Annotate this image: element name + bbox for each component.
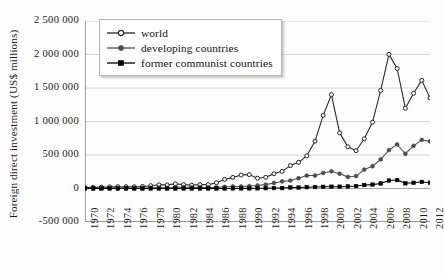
series-marker (412, 181, 416, 185)
series-marker (198, 187, 202, 191)
series-marker (395, 67, 399, 71)
legend-label: developing countries (141, 42, 238, 54)
series-marker (91, 187, 95, 191)
series-marker (403, 152, 407, 156)
series-marker (329, 93, 333, 97)
legend-label: world (141, 27, 168, 39)
series-marker (157, 187, 161, 191)
series-marker (420, 180, 424, 184)
series-marker (289, 186, 293, 190)
series-marker (231, 187, 235, 191)
series-marker (387, 52, 391, 56)
legend-marker-icon (106, 42, 136, 54)
series-marker (174, 187, 178, 191)
series-marker (288, 164, 292, 168)
series-line (85, 140, 430, 188)
series-marker (85, 187, 87, 191)
series-marker (116, 187, 120, 191)
series-marker (346, 185, 350, 189)
series-marker (313, 139, 317, 143)
series-marker (362, 183, 366, 187)
series-marker (330, 185, 334, 189)
series-marker (321, 185, 325, 189)
fdi-line-chart-figure: Foreign direct investment (US$ millions)… (0, 0, 445, 278)
series-marker (223, 187, 227, 191)
series-marker (403, 106, 407, 110)
series-marker (371, 120, 375, 124)
series-marker (231, 175, 235, 179)
series-marker (362, 168, 366, 172)
series-marker (305, 185, 309, 189)
series-marker (338, 172, 342, 176)
series-marker (313, 174, 317, 178)
series-marker (412, 91, 416, 95)
series-marker (338, 185, 342, 189)
series-marker (420, 78, 424, 82)
series-marker (420, 138, 424, 142)
series-marker (297, 186, 301, 190)
series-marker (412, 144, 416, 148)
legend-item: world (106, 25, 273, 40)
series-marker (256, 176, 260, 180)
series-marker (428, 181, 430, 185)
series-marker (354, 184, 358, 188)
series-marker (362, 137, 366, 141)
series-marker (305, 174, 309, 178)
series-marker (190, 187, 194, 191)
legend-marker-icon (106, 27, 136, 39)
series-marker (182, 187, 186, 191)
series-marker (165, 187, 169, 191)
series-marker (247, 173, 251, 177)
x-tick-label: 2012 (434, 207, 445, 229)
series-marker (132, 187, 136, 191)
series-marker (272, 172, 276, 176)
legend-item: former communist countries (106, 55, 273, 70)
series-marker (428, 96, 430, 100)
series-marker (149, 187, 153, 191)
series-marker (404, 181, 408, 185)
series-marker (305, 154, 309, 158)
series-marker (387, 148, 391, 152)
series-marker (108, 187, 112, 191)
series-marker (239, 173, 243, 177)
series-marker (371, 164, 375, 168)
series-marker (141, 187, 145, 191)
series-marker (346, 145, 350, 149)
series-marker (346, 175, 350, 179)
series-marker (272, 186, 276, 190)
series-marker (223, 177, 227, 181)
series-marker (206, 187, 210, 191)
series-marker (379, 88, 383, 92)
series-marker (428, 139, 430, 143)
series-marker (288, 179, 292, 183)
series-marker (379, 158, 383, 162)
series-marker (354, 149, 358, 153)
series-marker (338, 131, 342, 135)
series-marker (313, 185, 317, 189)
series-marker (371, 183, 375, 187)
series-marker (247, 187, 251, 191)
series-marker (264, 186, 268, 190)
series-marker (124, 187, 128, 191)
series-marker (280, 179, 284, 183)
series-marker (215, 187, 219, 191)
series-marker (395, 178, 399, 182)
chart-legend: worlddeveloping countriesformer communis… (99, 19, 282, 76)
series-marker (387, 179, 391, 183)
series-marker (379, 182, 383, 186)
legend-marker-icon (106, 57, 136, 69)
series-marker (264, 183, 268, 187)
series-marker (330, 169, 334, 173)
series-marker (264, 175, 268, 179)
series-marker (297, 160, 301, 164)
series-marker (354, 174, 358, 178)
series-marker (100, 187, 104, 191)
series-marker (239, 187, 243, 191)
legend-label: former communist countries (141, 57, 273, 69)
series-marker (280, 169, 284, 173)
series-marker (395, 143, 399, 147)
series-marker (321, 113, 325, 117)
series-marker (256, 186, 260, 190)
legend-item: developing countries (106, 40, 273, 55)
series-marker (321, 171, 325, 175)
